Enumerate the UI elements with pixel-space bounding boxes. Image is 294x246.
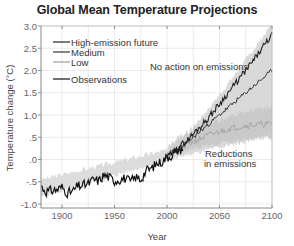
annotation-in-emissions: in emissions (204, 158, 257, 169)
x-tick-label: 1950 (104, 210, 125, 221)
y-tick-label: 2.5 (24, 43, 37, 54)
x-tick-label: 2000 (156, 210, 177, 221)
y-axis-ticks: 3.02.52.01.51.0.5.0-.5-1.0 (21, 21, 41, 210)
x-axis-label: Year (147, 231, 166, 242)
x-tick-label: 1900 (51, 210, 72, 221)
y-tick-label: 1.5 (24, 87, 37, 98)
y-tick-label: 1.0 (24, 110, 37, 121)
temperature-chart: 3.02.52.01.51.0.5.0-.5-1.0 1900195020002… (0, 0, 294, 246)
y-tick-label: 3.0 (24, 21, 37, 32)
y-tick-label: .5 (29, 132, 37, 143)
y-tick-label: -.5 (26, 176, 37, 187)
legend-label: Observations (71, 74, 127, 85)
x-tick-label: 2100 (261, 210, 282, 221)
y-tick-label: .0 (29, 154, 37, 165)
legend-label: Low (71, 57, 89, 68)
annotation-no-action: No action on emissions (150, 61, 248, 72)
legend: High-emission futureMediumLowObservation… (53, 37, 158, 85)
y-tick-label: -1.0 (21, 199, 37, 210)
x-tick-label: 2050 (209, 210, 230, 221)
y-tick-label: 2.0 (24, 65, 37, 76)
y-axis-label: Temperature change (°C) (4, 65, 15, 172)
